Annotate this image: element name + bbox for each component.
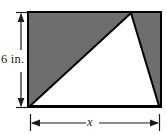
height-arrowhead-down (18, 98, 25, 107)
geometry-figure: 6 in. x (0, 0, 167, 135)
width-dimension-label: x (87, 116, 93, 129)
height-arrowhead-up (18, 13, 25, 22)
figure-canvas (0, 0, 167, 135)
width-arrowhead-right (150, 120, 159, 127)
height-dimension-label: 6 in. (1, 53, 24, 66)
width-arrowhead-left (31, 120, 40, 127)
width-dimension-group (31, 114, 160, 131)
